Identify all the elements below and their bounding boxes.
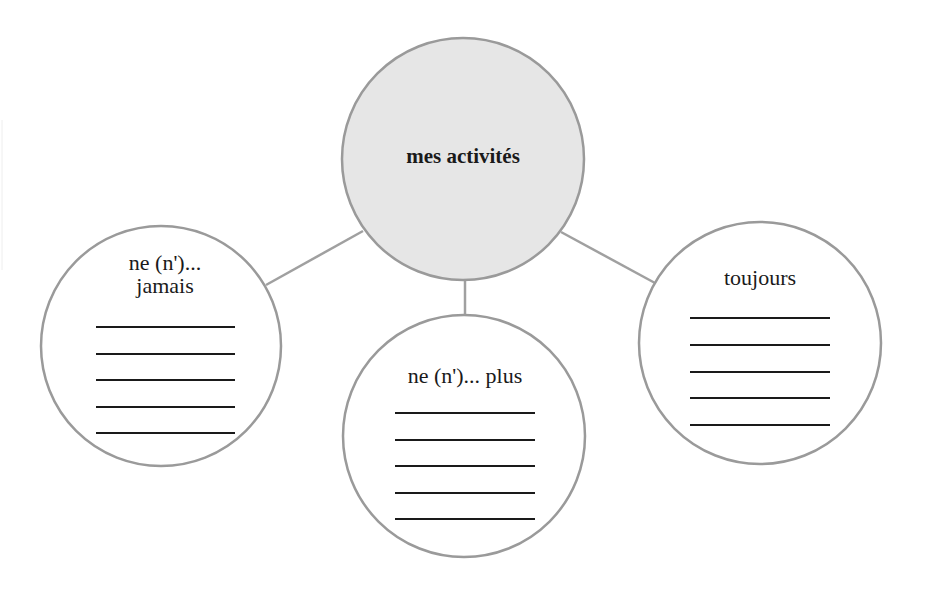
hub-node: mes activités — [342, 38, 584, 280]
connector-hub-to-jamais — [266, 231, 363, 285]
branch-label-jamais-line2: jamais — [135, 273, 193, 298]
branch-toujours: toujours — [639, 222, 881, 464]
branch-label-plus: ne (n')... plus — [408, 363, 523, 388]
branch-jamais: ne (n')... jamais — [41, 226, 281, 466]
branch-label-jamais-line1: ne (n')... — [129, 250, 201, 275]
branch-label-toujours: toujours — [724, 265, 796, 290]
branch-circle-toujours — [639, 222, 881, 464]
connector-hub-to-toujours — [561, 232, 655, 283]
hub-label: mes activités — [406, 144, 520, 168]
branch-plus: ne (n')... plus — [343, 315, 585, 557]
branch-circle-plus — [343, 315, 585, 557]
concept-map: mes activités ne (n')... jamais ne (n').… — [0, 0, 925, 599]
